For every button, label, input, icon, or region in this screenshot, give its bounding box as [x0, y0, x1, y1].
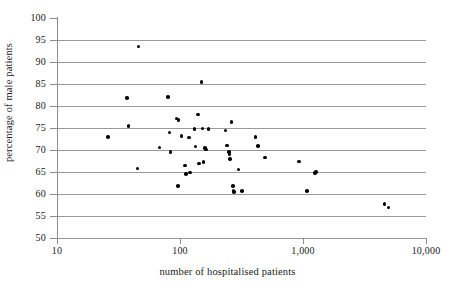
x-axis-tick — [57, 238, 58, 244]
data-point — [180, 134, 184, 138]
gridline — [57, 194, 426, 195]
y-axis-tick-label: 70 — [12, 145, 46, 155]
data-point — [305, 189, 309, 193]
data-point — [125, 96, 129, 100]
y-axis-tick-label: 95 — [12, 35, 46, 45]
y-axis-tick — [50, 194, 57, 195]
x-axis-tick — [180, 238, 181, 244]
x-axis-tick-label: 100 — [145, 245, 215, 256]
data-point — [187, 136, 191, 140]
y-axis-tick-label: 80 — [12, 101, 46, 111]
y-axis-tick-label: 85 — [12, 79, 46, 89]
y-axis-tick — [50, 216, 57, 217]
scatter-chart: percentage of male patients 505560657075… — [0, 0, 455, 291]
y-axis-tick — [50, 62, 57, 63]
gridline — [57, 150, 426, 151]
data-point — [383, 202, 387, 206]
x-axis-title: number of hospitalised patients — [0, 266, 455, 277]
data-point — [231, 184, 235, 188]
gridline — [57, 172, 426, 173]
data-point — [196, 113, 200, 117]
y-axis-tick-label: 60 — [12, 189, 46, 199]
data-point — [263, 156, 267, 160]
data-point — [194, 145, 198, 149]
y-axis-tick — [50, 150, 57, 151]
data-point — [158, 146, 162, 150]
gridline — [57, 62, 426, 63]
data-point — [237, 168, 241, 172]
data-point — [127, 124, 131, 128]
data-point — [225, 144, 229, 148]
gridline — [57, 106, 426, 107]
data-point — [314, 170, 318, 174]
data-point — [166, 95, 170, 99]
y-axis-tick — [50, 18, 57, 19]
x-axis-tick-label: 10,000 — [391, 245, 455, 256]
plot-area — [57, 18, 426, 238]
gridline — [57, 216, 426, 217]
gridline — [57, 84, 426, 85]
y-axis-tick-label: 90 — [12, 57, 46, 67]
data-point — [230, 120, 234, 124]
gridline — [57, 128, 426, 129]
data-point — [201, 127, 205, 131]
data-point — [137, 45, 141, 49]
y-axis-tick-label: 55 — [12, 211, 46, 221]
y-axis-tick-label: 65 — [12, 167, 46, 177]
data-point — [169, 150, 173, 154]
y-axis-tick — [50, 40, 57, 41]
data-point — [228, 153, 232, 157]
x-axis-tick — [303, 238, 304, 244]
y-axis-tick-label: 100 — [12, 13, 46, 23]
data-point — [106, 135, 110, 139]
data-point — [207, 127, 211, 131]
data-point — [176, 184, 180, 188]
gridline — [57, 40, 426, 41]
data-point — [256, 144, 260, 148]
data-point — [136, 167, 140, 171]
data-point — [197, 162, 201, 166]
data-point — [224, 129, 228, 133]
data-point — [193, 127, 197, 131]
y-axis-tick — [50, 172, 57, 173]
data-point — [168, 131, 172, 135]
data-point — [232, 190, 236, 194]
data-point — [387, 206, 391, 210]
y-axis-tick — [50, 128, 57, 129]
data-point — [183, 164, 187, 168]
y-axis-tick — [50, 106, 57, 107]
data-point — [240, 189, 244, 193]
y-axis-tick-label: 75 — [12, 123, 46, 133]
y-axis-tick-label: 50 — [12, 233, 46, 243]
data-point — [177, 118, 181, 122]
gridline — [57, 238, 426, 239]
data-point — [297, 160, 301, 164]
data-point — [202, 160, 206, 164]
data-point — [188, 171, 192, 175]
data-point — [204, 148, 208, 152]
y-axis-tick — [50, 84, 57, 85]
data-point — [254, 135, 258, 139]
x-axis-tick — [426, 238, 427, 244]
data-point — [228, 157, 232, 161]
x-axis-tick-label: 10 — [22, 245, 92, 256]
x-axis-tick-label: 1,000 — [268, 245, 338, 256]
y-axis-tick — [50, 238, 57, 239]
